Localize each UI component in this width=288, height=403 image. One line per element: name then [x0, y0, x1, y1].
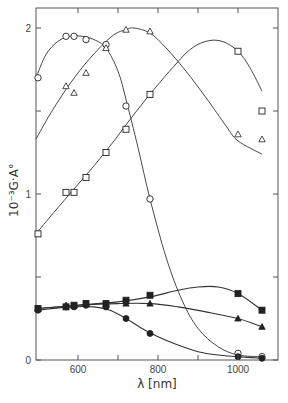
x-axis-title: λ [nm]: [137, 377, 177, 391]
open-triangle-point: [259, 136, 265, 142]
open-square-point: [63, 189, 69, 195]
x-tick-label: 1000: [227, 364, 250, 375]
filled-circle-point: [35, 307, 41, 313]
open-square-point: [83, 174, 89, 180]
filled-circle-point: [63, 304, 69, 310]
x-tick-label: 800: [150, 364, 167, 375]
filled-square-point: [235, 291, 241, 297]
filled-circle-point: [147, 330, 153, 336]
open-circle-point: [63, 33, 69, 39]
open-square-point: [123, 126, 129, 132]
filled-square-point: [147, 292, 153, 298]
y-tick-label: 0: [25, 355, 31, 366]
y-axis-title: 10⁻³G·A°: [7, 163, 21, 217]
open-square-point: [259, 108, 265, 114]
open-square-point: [71, 189, 77, 195]
open-triangle-point: [235, 131, 241, 137]
filled-circle-point: [259, 355, 265, 361]
filled-circle-point: [103, 304, 109, 310]
fitted-curves: [36, 28, 262, 358]
open-circle-point: [147, 196, 153, 202]
y-tick-label: 2: [25, 23, 31, 34]
open-square-point: [147, 91, 153, 97]
open-circle-point: [35, 75, 41, 81]
open-square-curve: [36, 40, 262, 234]
open-circle-point: [123, 103, 129, 109]
filled-circle-point: [71, 304, 77, 310]
open-circle-point: [71, 33, 77, 39]
open-square-point: [103, 150, 109, 156]
y-tick-label: 1: [25, 189, 31, 200]
chart: 6008001000012 λ [nm] 10⁻³G·A°: [0, 0, 288, 403]
open-triangle-point: [83, 70, 89, 76]
data-markers: [35, 26, 265, 361]
filled-circle-point: [83, 302, 89, 308]
filled-circle-point: [123, 316, 129, 322]
filled-square-point: [259, 307, 265, 313]
open-square-point: [235, 48, 241, 54]
open-square-point: [35, 231, 41, 237]
open-triangle-point: [71, 90, 77, 96]
open-circle-point: [83, 36, 89, 42]
open-triangle-point: [123, 26, 129, 32]
x-tick-label: 600: [70, 364, 87, 375]
open-triangle-point: [147, 28, 153, 34]
